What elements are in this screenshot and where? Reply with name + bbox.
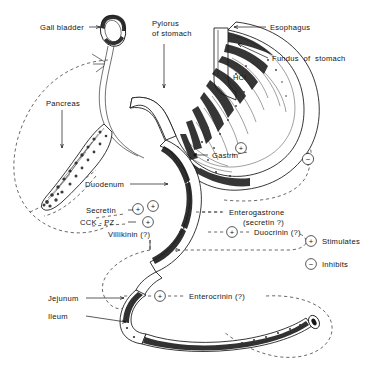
pancreas-group (41, 124, 112, 210)
label-enterogastrone-line1: Enterogastrone (229, 208, 284, 217)
legend: + Stimulates − Inhibits (306, 236, 360, 270)
stomach-group (130, 22, 319, 190)
enterogastrone-minus-marker: − (302, 153, 313, 164)
duct-to-duodenum-2 (112, 130, 144, 158)
enterogastrone-minus-sign: − (306, 155, 311, 164)
label-secretin: Secretin (86, 206, 116, 215)
label-pancreas: Pancreas (46, 99, 80, 108)
label-hcl: HCl (233, 73, 246, 82)
enterocrinin-plus-sign: + (158, 292, 163, 301)
label-ileum: Ileum (48, 312, 68, 321)
label-jejunum: Jejunum (48, 294, 78, 303)
pylorus-shape (130, 97, 176, 140)
label-fundus: Fundus of stomach (272, 54, 346, 63)
pancreas-shape (41, 124, 112, 210)
legend-inhibits-label: Inhibits (322, 260, 348, 269)
label-enterogastrone-line2: (secretin ?) (243, 218, 284, 227)
label-enterocrinin: Enterocrinin (?) (189, 292, 245, 301)
label-duodenum: Duodenum (85, 180, 124, 189)
common-bile-duct (105, 46, 114, 130)
secretin-plus-a-sign: + (136, 205, 141, 214)
enterocrinin-plus-marker: + (155, 291, 166, 302)
cck-pz-plus-marker: + (143, 217, 154, 228)
label-duocrinin: Duocrinin (?) (254, 228, 301, 237)
duocrinin-plus-marker: + (227, 227, 238, 238)
label-pylorus-line1: Pylorus (152, 19, 179, 28)
duocrinin-plus-sign: + (230, 228, 235, 237)
legend-stimulates-label: Stimulates (322, 237, 360, 246)
cck-pz-plus-sign: + (146, 218, 151, 227)
secretin-plus-b-sign: + (151, 202, 156, 211)
label-villikinin: Villikinin (?) (108, 230, 150, 239)
legend-inhibits-row: − Inhibits (306, 259, 348, 270)
gi-hormone-diagram: + − + + + + + Gall bladder Pylorus (0, 0, 381, 372)
legend-minus-sign: − (309, 260, 314, 269)
label-pylorus-line2: of stomach (152, 29, 192, 38)
label-cck-pz: CCK - PZ (80, 218, 115, 227)
legend-plus-sign: + (309, 237, 314, 246)
hepatic-duct-branch (92, 54, 105, 62)
label-esophagus: Esophagus (270, 23, 310, 32)
gastrin-plus-sign: + (239, 144, 244, 153)
secretin-plus-b-marker: + (148, 201, 159, 212)
label-gall-bladder: Gall bladder (40, 23, 84, 32)
ileum-mucosa (143, 321, 309, 350)
villikinin-loop (102, 250, 150, 309)
label-gastrin: Gastrin (212, 151, 238, 160)
secretin-plus-a-marker: + (133, 204, 144, 215)
legend-stimulates-row: + Stimulates (306, 236, 360, 247)
